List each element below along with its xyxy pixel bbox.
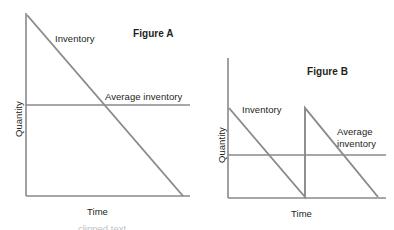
figure-canvas: Inventory Figure A Average inventory Qua… [0, 0, 394, 230]
figure-a-average-label: Average inventory [105, 91, 182, 103]
figure-a-title: Figure A [133, 28, 174, 40]
figure-a-y-axis-label: Quantity [13, 101, 25, 137]
figure-b-title: Figure B [307, 66, 348, 78]
figure-b-inventory-line [229, 108, 378, 197]
figure-b-inventory-label: Inventory [242, 104, 282, 116]
figure-a-plot [26, 13, 190, 196]
figure-a-x-axis-label: Time [87, 206, 108, 218]
figure-b-y-axis-label: Quantity [216, 127, 228, 163]
figure-a-inventory-label: Inventory [55, 33, 95, 45]
figure-b-x-axis-label: Time [291, 208, 312, 220]
figure-b-average-label: Average inventory [337, 126, 393, 149]
clipped-caption: clipped text [78, 223, 318, 230]
